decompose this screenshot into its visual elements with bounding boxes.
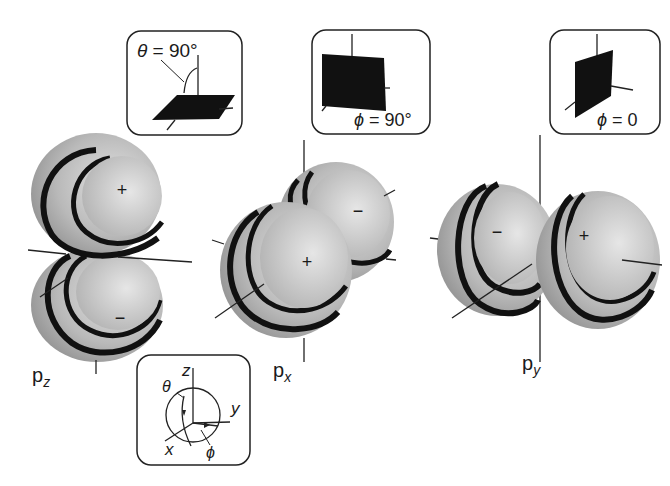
py-inset-caption: ϕ = 0 [597, 110, 638, 130]
px-nodal-plane-inset: ϕ = 90° [312, 30, 430, 134]
px-front-sign: + [302, 252, 313, 272]
py-orbital: − + py [430, 135, 662, 378]
py-right-sign: + [579, 226, 590, 246]
px-back-sign: − [353, 201, 364, 221]
y-axis-left [212, 240, 224, 244]
z-axis-label: z [181, 361, 191, 380]
pz-inset-caption: θ = 90° [137, 40, 198, 61]
pz-lower-lobe: − [31, 248, 163, 362]
py-left-sign: − [492, 222, 503, 242]
px-orbital: − + px [212, 140, 396, 385]
pz-label: pz [32, 364, 50, 390]
y-axis-right [386, 259, 396, 260]
py-right-lobe: + [536, 191, 660, 329]
phi-label: ϕ [206, 444, 215, 461]
spherical-coordinates-inset: z y x θ ϕ [137, 355, 250, 465]
px-label: px [273, 359, 292, 385]
pz-orbital: − + pz [28, 133, 192, 390]
pz-lower-sign: − [115, 308, 126, 328]
pz-upper-lobe: + [31, 133, 162, 256]
py-nodal-plane-inset: ϕ = 0 [550, 30, 660, 134]
px-inset-caption: ϕ = 90° [354, 110, 412, 130]
pz-nodal-plane-inset: θ = 90° [127, 31, 242, 135]
y-axis-label: y [230, 399, 241, 418]
pz-upper-sign: + [117, 180, 128, 200]
theta-label: θ [162, 378, 171, 395]
py-label: py [522, 352, 541, 378]
p-orbitals-diagram: θ = 90° ϕ = 90° ϕ = 0 − [0, 0, 670, 486]
nodal-plane-yz [322, 54, 386, 111]
y-axis-left [28, 250, 66, 254]
x-axis-label: x [164, 440, 174, 459]
x-axis-left [430, 238, 438, 239]
px-front-lobe: + [220, 202, 352, 338]
